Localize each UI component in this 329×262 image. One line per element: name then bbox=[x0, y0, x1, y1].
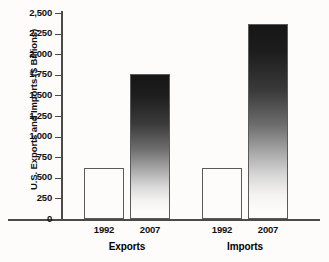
y-tick-label: 500 bbox=[8, 171, 52, 182]
group-label-exports: Exports bbox=[82, 241, 172, 252]
y-tick-mark bbox=[55, 54, 62, 55]
y-tick-mark bbox=[55, 157, 62, 158]
y-tick-mark bbox=[55, 75, 62, 76]
bar-exports-2007 bbox=[130, 74, 170, 219]
y-tick-mark bbox=[55, 13, 62, 14]
x-tick-label-3: 2007 bbox=[245, 224, 291, 235]
y-tick-label: 1,750 bbox=[8, 68, 52, 79]
y-tick-mark bbox=[55, 219, 62, 220]
group-label-imports: Imports bbox=[200, 241, 290, 252]
bar-chart-figure: U.S. Exports and Imports ($ Billions) 2,… bbox=[0, 0, 329, 262]
y-tick-label: 2,500 bbox=[8, 7, 52, 18]
y-tick-mark bbox=[55, 137, 62, 138]
y-tick-label: 1,000 bbox=[8, 130, 52, 141]
y-tick-label: 0 bbox=[8, 213, 52, 224]
x-tick-label-0: 1992 bbox=[81, 224, 127, 235]
y-tick-label: 2,250 bbox=[8, 27, 52, 38]
y-tick-label: 750 bbox=[8, 151, 52, 162]
y-tick-mark bbox=[55, 95, 62, 96]
y-tick-mark bbox=[55, 116, 62, 117]
bar-exports-1992 bbox=[84, 168, 124, 219]
bar-imports-2007 bbox=[248, 24, 288, 219]
y-tick-mark bbox=[55, 178, 62, 179]
y-tick-mark bbox=[55, 34, 62, 35]
y-tick-label: 1,250 bbox=[8, 110, 52, 121]
y-tick-label: 250 bbox=[8, 192, 52, 203]
y-tick-mark bbox=[55, 198, 62, 199]
plot-area bbox=[62, 13, 306, 219]
bar-imports-1992 bbox=[202, 168, 242, 219]
y-tick-label: 1,500 bbox=[8, 89, 52, 100]
y-tick-label: 2,000 bbox=[8, 48, 52, 59]
x-tick-label-1: 2007 bbox=[127, 224, 173, 235]
x-tick-label-2: 1992 bbox=[199, 224, 245, 235]
